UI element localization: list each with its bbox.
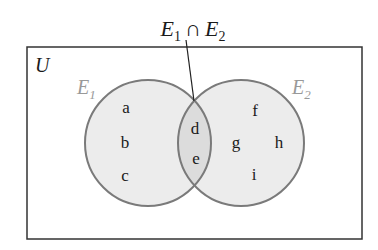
element-b: b — [121, 133, 130, 152]
element-d: d — [191, 119, 200, 138]
intersection-label: E1∩E2 — [160, 16, 226, 44]
element-i: i — [252, 165, 257, 184]
element-e: e — [192, 149, 200, 168]
element-g: g — [232, 133, 241, 152]
element-h: h — [275, 133, 284, 152]
element-a: a — [122, 98, 130, 117]
element-f: f — [252, 101, 258, 120]
element-c: c — [121, 166, 129, 185]
universe-label: U — [35, 54, 51, 76]
venn-diagram: E1∩E2 U E1 E2 a b c d e f g h i — [0, 0, 378, 250]
